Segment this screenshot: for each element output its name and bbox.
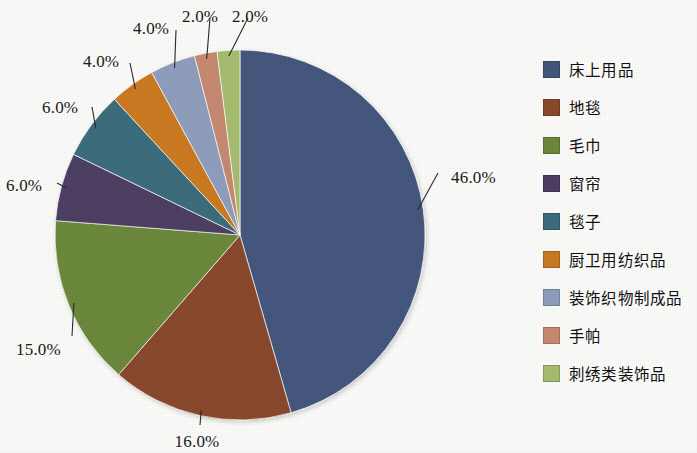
legend-item-label: 床上用品 xyxy=(569,58,634,80)
slice-percent-label: 6.0% xyxy=(6,176,42,195)
legend-item[interactable]: 毯子 xyxy=(543,202,695,240)
slice-percent-label: 4.0% xyxy=(83,52,119,71)
slice-percent-label: 6.0% xyxy=(42,98,78,117)
legend-color-swatch xyxy=(543,61,560,78)
slice-percent-label: 2.0% xyxy=(182,7,218,26)
legend-item-label: 刺绣类装饰品 xyxy=(569,362,666,384)
legend-item-label: 厨卫用纺织品 xyxy=(569,248,666,270)
legend-item-label: 手帕 xyxy=(569,324,601,346)
slice-percent-label: 16.0% xyxy=(175,432,220,451)
legend-item-label: 毯子 xyxy=(569,210,601,232)
chart-legend: 床上用品地毯毛巾窗帘毯子厨卫用纺织品装饰织物制成品手帕刺绣类装饰品 xyxy=(543,50,695,392)
legend-item-label: 装饰织物制成品 xyxy=(569,286,682,308)
slice-percent-label: 46.0% xyxy=(451,168,496,187)
legend-color-swatch xyxy=(543,213,560,230)
legend-item[interactable]: 毛巾 xyxy=(543,126,695,164)
slice-percent-label: 4.0% xyxy=(133,19,169,38)
legend-item[interactable]: 刺绣类装饰品 xyxy=(543,354,695,392)
leader-line xyxy=(418,173,438,210)
legend-item[interactable]: 装饰织物制成品 xyxy=(543,278,695,316)
legend-item[interactable]: 地毯 xyxy=(543,88,695,126)
legend-item[interactable]: 厨卫用纺织品 xyxy=(543,240,695,278)
legend-item[interactable]: 窗帘 xyxy=(543,164,695,202)
slice-percent-label: 15.0% xyxy=(16,340,61,359)
legend-color-swatch xyxy=(543,99,560,116)
legend-item[interactable]: 床上用品 xyxy=(543,50,695,88)
legend-item-label: 毛巾 xyxy=(569,134,601,156)
legend-color-swatch xyxy=(543,137,560,154)
pie-chart-figure: 46.0%16.0%15.0%6.0%6.0%4.0%4.0%2.0%2.0% … xyxy=(0,0,697,453)
legend-item[interactable]: 手帕 xyxy=(543,316,695,354)
legend-color-swatch xyxy=(543,175,560,192)
legend-color-swatch xyxy=(543,289,560,306)
legend-color-swatch xyxy=(543,251,560,268)
legend-item-label: 窗帘 xyxy=(569,172,601,194)
pie-slices xyxy=(55,50,425,420)
legend-color-swatch xyxy=(543,365,560,382)
legend-color-swatch xyxy=(543,327,560,344)
legend-item-label: 地毯 xyxy=(569,96,601,118)
slice-percent-label: 2.0% xyxy=(232,7,268,26)
